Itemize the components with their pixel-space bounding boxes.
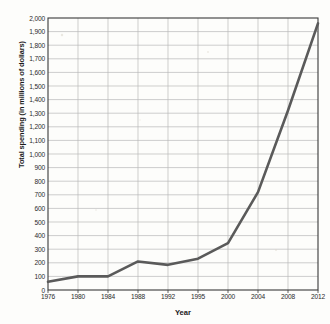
line-chart: Total spending (in millions of dollars) … (0, 0, 330, 324)
x-axis-tick-label: 2012 (300, 293, 330, 300)
gridlines (48, 18, 318, 293)
plot-area (0, 0, 330, 324)
x-axis-tick-labels: 1976198019841988199219952000200420082012 (0, 293, 330, 307)
data-series-line (48, 23, 318, 281)
x-axis-title: Year (48, 308, 318, 317)
